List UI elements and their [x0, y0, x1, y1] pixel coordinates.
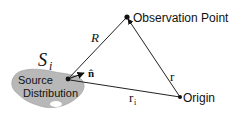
- surface-label: S i: [38, 50, 52, 73]
- source-field-diagram: Observation Point Origin Source Distribu…: [0, 0, 247, 118]
- vector-ri-label-sub: i: [134, 98, 137, 107]
- source-point-dot: [66, 77, 71, 82]
- source-label-line2: Distribution: [23, 87, 78, 99]
- observation-point-dot: [124, 14, 129, 19]
- source-label-line1: Source: [18, 74, 53, 86]
- surface-label-sub: i: [49, 59, 52, 73]
- vector-r-label: r: [170, 69, 175, 84]
- vector-ri-label: r i: [129, 90, 137, 107]
- vector-r-arrow: [128, 19, 180, 97]
- blob-hole: [50, 101, 62, 107]
- origin-dot: [178, 95, 182, 99]
- observation-point-label: Observation Point: [133, 11, 229, 25]
- vector-R-line: [68, 18, 126, 79]
- vector-ri-line: [70, 80, 180, 97]
- normal-vector-label: n̂: [88, 67, 94, 79]
- surface-label-main: S: [38, 50, 47, 70]
- vector-R-label: R: [90, 30, 99, 45]
- origin-label: Origin: [183, 91, 215, 105]
